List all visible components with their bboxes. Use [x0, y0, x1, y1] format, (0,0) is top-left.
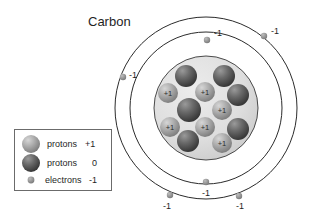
- electron: -1: [163, 192, 173, 211]
- nucleus-particle: +1: [212, 133, 232, 153]
- nucleus-particle: [177, 98, 201, 122]
- legend-charge: 0: [92, 158, 97, 168]
- legend-label: protons: [47, 139, 78, 149]
- proton-charge-label: +1: [166, 123, 175, 132]
- neutron-sphere-dark: [177, 130, 199, 152]
- proton-charge-label: +1: [218, 106, 227, 115]
- nucleus-particle: +1: [195, 82, 215, 102]
- proton-charge-label: +1: [164, 89, 173, 98]
- electron-dot: [236, 193, 242, 199]
- neutron-sphere-dark: [227, 84, 249, 106]
- electron-dot: [167, 192, 173, 198]
- electron: -1: [261, 26, 279, 39]
- nucleus-particle: [227, 118, 249, 140]
- proton-charge-label: +1: [218, 139, 227, 148]
- nucleus-particle: [177, 130, 199, 152]
- neutron-sphere-dark: [177, 98, 201, 122]
- nucleus-particle: [175, 65, 197, 87]
- legend-label: protons: [47, 158, 78, 168]
- proton-charge-label: +1: [201, 88, 210, 97]
- legend: protons +1 protons 0 electrons -1: [15, 130, 112, 191]
- electron: -1: [204, 28, 222, 43]
- atom-diagram-canvas: Carbon +1 +1: [0, 0, 313, 217]
- electron: -1: [236, 193, 244, 211]
- nucleus-particle: +1: [195, 117, 215, 137]
- proton-sphere-light: [22, 135, 40, 153]
- electron-charge-label: -1: [163, 201, 171, 211]
- proton-charge-label: +1: [201, 123, 210, 132]
- neutron-sphere-dark: [175, 65, 197, 87]
- legend-charge: +1: [85, 139, 95, 149]
- neutron-sphere-dark: [227, 118, 249, 140]
- nucleus-particle: +1: [158, 83, 178, 103]
- electron-dot: [28, 177, 35, 184]
- nucleus-particle: +1: [160, 117, 180, 137]
- electron-charge-label: -1: [271, 26, 279, 36]
- electron-charge-label: -1: [129, 70, 137, 80]
- nucleus-particle: +1: [212, 100, 232, 120]
- nucleus-particle: [227, 84, 249, 106]
- electron-dot: [120, 74, 126, 80]
- legend-charge: -1: [89, 175, 97, 185]
- neutron-sphere-dark: [213, 65, 235, 87]
- nucleus-particle: [213, 65, 235, 87]
- electron-dot: [203, 179, 209, 185]
- neutron-sphere-dark: [22, 154, 40, 172]
- electron-dot: [204, 37, 210, 43]
- electron: -1: [202, 179, 210, 198]
- nucleus-region: [154, 56, 258, 160]
- diagram-title: Carbon: [88, 14, 131, 29]
- electron-charge-label: -1: [236, 201, 244, 211]
- electron-charge-label: -1: [202, 188, 210, 198]
- carbon-atom-diagram: Carbon +1 +1: [0, 0, 313, 217]
- electron-dot: [261, 33, 267, 39]
- electron-charge-label: -1: [214, 28, 222, 38]
- legend-label: electrons: [45, 175, 82, 185]
